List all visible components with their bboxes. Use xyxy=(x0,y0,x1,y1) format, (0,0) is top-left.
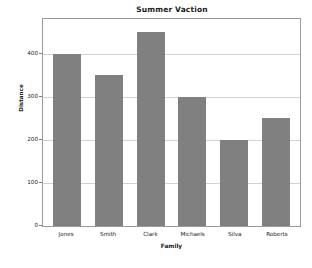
bar-jones[interactable] xyxy=(53,54,81,227)
bar-clark[interactable] xyxy=(137,32,165,226)
bar-series xyxy=(43,19,300,226)
x-tick-label: Silva xyxy=(214,231,256,243)
bar-roberts[interactable] xyxy=(262,118,290,226)
bar-slot xyxy=(255,19,297,226)
y-tick-label: 100 xyxy=(14,179,38,185)
x-tick-label: Smith xyxy=(87,231,129,243)
chart-figure: Summer Vaction Distance 0100200300400 Jo… xyxy=(0,0,312,268)
bar-michaels[interactable] xyxy=(178,97,206,226)
bar-slot xyxy=(88,19,130,226)
chart-title: Summer Vaction xyxy=(42,5,302,14)
x-tick-label: Jones xyxy=(45,231,87,243)
y-axis-ticks: 0100200300400 xyxy=(12,18,38,227)
x-tick-label: Clark xyxy=(129,231,171,243)
x-axis-tick-labels: JonesSmithClarkMichaelsSilvaRoberts xyxy=(42,231,301,243)
bar-silva[interactable] xyxy=(220,140,248,226)
x-axis-label: Family xyxy=(42,243,301,249)
y-tick-label: 400 xyxy=(14,50,38,56)
y-tick-label: 200 xyxy=(14,136,38,142)
bar-slot xyxy=(46,19,88,226)
x-tick-label: Roberts xyxy=(256,231,298,243)
bar-slot xyxy=(130,19,172,226)
y-tick-label: 0 xyxy=(14,222,38,228)
bar-slot xyxy=(213,19,255,226)
y-tick-label: 300 xyxy=(14,93,38,99)
plot-area xyxy=(42,18,301,227)
bar-slot xyxy=(171,19,213,226)
x-tick-label: Michaels xyxy=(172,231,214,243)
bar-smith[interactable] xyxy=(95,75,123,226)
